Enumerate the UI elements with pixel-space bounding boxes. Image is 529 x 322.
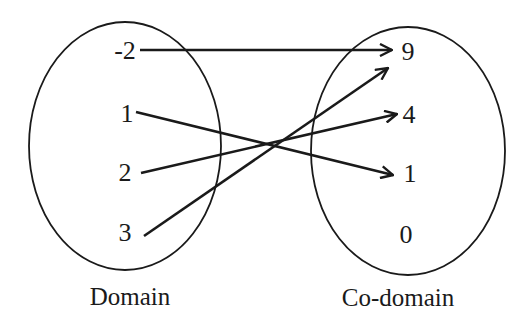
codomain-element: 9 [402,37,415,66]
mapping-arrows [136,50,397,236]
domain-caption: Domain [90,283,171,310]
domain-element: 3 [119,218,132,247]
codomain-element: 0 [400,220,413,249]
codomain-caption: Co-domain [342,284,455,311]
domain-element: -2 [114,36,136,65]
arrow-3-to-9 [144,68,388,236]
codomain-element: 1 [404,159,417,188]
codomain-set: 9 4 1 0 Co-domain [311,27,505,311]
codomain-element: 4 [403,100,416,129]
domain-element: 1 [121,99,134,128]
domain-set: -2 1 2 3 Domain [29,22,221,310]
domain-element: 2 [119,158,132,187]
mapping-diagram: -2 1 2 3 Domain 9 4 1 0 Co-domain [0,0,529,322]
